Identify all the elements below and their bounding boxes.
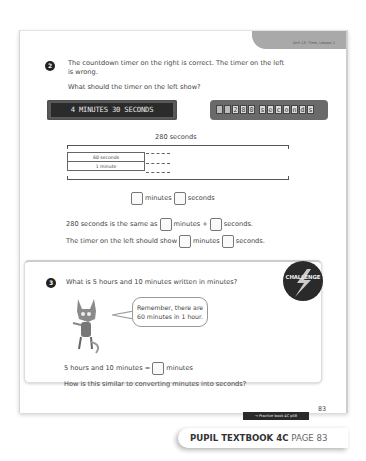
bar-1-minute: 1 minute (67, 161, 145, 171)
footer-page-label: PAGE 83 (291, 433, 327, 443)
q3-equation: 5 hours and 10 minutes =minutes (64, 362, 193, 375)
timer-cell: 8 (240, 105, 247, 114)
timer-cell: n (291, 105, 298, 114)
equation-left: 5 hours and 10 minutes = (64, 364, 150, 372)
minutes-answer-box[interactable] (131, 192, 143, 205)
fox-character-icon (70, 297, 104, 355)
timer-cell: 2 (232, 105, 239, 114)
speech-line-1: Remember, there are (133, 303, 207, 312)
sentence-2: The timer on the left should showminutes… (66, 235, 265, 248)
q3-answer-box[interactable] (152, 362, 164, 375)
question-number-2: 2 (45, 61, 55, 71)
timer-cell: d (299, 105, 306, 114)
timer-cell (256, 105, 258, 114)
timer-cell: s (259, 105, 266, 114)
seconds-answer-box[interactable] (174, 192, 186, 205)
q2-text-line2: is wrong. (68, 68, 98, 76)
q3-followup: How is this similar to converting minute… (64, 380, 246, 388)
q2-text-line1: The countdown timer on the right is corr… (68, 59, 284, 67)
wrong-timer-text: 4 MINUTES 30 SECONDS (51, 103, 173, 117)
challenge-badge: CHALLENGE (283, 261, 323, 301)
timer-cell: c (275, 105, 282, 114)
wrong-timer-display: 4 MINUTES 30 SECONDS (47, 100, 177, 120)
sentence-1-part-a: 280 seconds is the same as (66, 220, 158, 228)
correct-timer-display: 280seconds (210, 100, 328, 120)
sentence-2-part-c: seconds. (236, 237, 265, 245)
q2-prompt: What should the timer on the left show? (68, 83, 201, 91)
dashed-extension (146, 172, 170, 173)
q3-text: What is 5 hours and 10 minutes written i… (66, 278, 237, 286)
timer-cell: o (283, 105, 290, 114)
answer-row: minutesseconds (129, 192, 215, 205)
footer-tab: PUPIL TEXTBOOK 4C PAGE 83 (178, 428, 348, 448)
sentence-1-minutes-box[interactable] (160, 218, 172, 231)
sentence-1-part-b: minutes + (174, 220, 208, 228)
bottom-bracket (67, 176, 289, 180)
equation-unit: minutes (166, 364, 193, 372)
timer-cell: e (267, 105, 274, 114)
dashed-extension (146, 153, 170, 154)
sentence-2-seconds-box[interactable] (222, 235, 234, 248)
speech-line-2: 60 minutes in 1 hour. (133, 312, 207, 321)
sentence-2-part-b: minutes (193, 237, 220, 245)
sentence-1: 280 seconds is the same asminutes +secon… (66, 218, 253, 231)
top-bracket (67, 145, 289, 149)
page-number: 83 (318, 405, 326, 413)
timer-cell: 0 (248, 105, 255, 114)
timer-cell (224, 105, 231, 114)
speech-bubble: Remember, there are 60 minutes in 1 hour… (132, 297, 208, 327)
sentence-2-minutes-box[interactable] (179, 235, 191, 248)
timer-cell: s (307, 105, 314, 114)
unit-lesson-tab: Unit 13: Time, Lesson 1 (252, 31, 346, 49)
sentence-2-part-a: The timer on the left should show (66, 237, 177, 245)
practice-book-link[interactable]: → Practice book 4C p58 (243, 412, 309, 420)
timer-cell (216, 105, 223, 114)
lightning-icon (283, 261, 323, 301)
sentence-1-seconds-box[interactable] (210, 218, 222, 231)
footer-book-title: PUPIL TEXTBOOK 4C (190, 433, 289, 443)
seconds-label: seconds (188, 194, 215, 202)
bar-total-label: 280 seconds (155, 133, 197, 141)
dashed-extension (146, 163, 170, 164)
minutes-label: minutes (145, 194, 172, 202)
question-number-3: 3 (46, 278, 56, 288)
timer-cells: 280seconds (216, 105, 314, 114)
sentence-1-part-c: seconds. (224, 220, 253, 228)
